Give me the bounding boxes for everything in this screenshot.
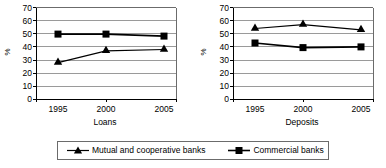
x-tick-label: 2005 — [344, 105, 378, 114]
x-axis-title-deposits: Deposits — [242, 118, 362, 127]
data-point-marker — [358, 43, 365, 50]
triangle-marker-icon — [66, 145, 90, 156]
x-axis-title-loans: Loans — [45, 118, 165, 127]
data-point-marker — [103, 31, 110, 38]
legend-label: Mutual and cooperative banks — [92, 146, 205, 155]
chart-panel-deposits: % 70 60 50 40 30 20 10 0 — [193, 0, 386, 130]
data-point-marker — [161, 33, 168, 40]
plot-background — [36, 8, 176, 100]
legend-item-mutual-cooperative-banks: Mutual and cooperative banks — [66, 145, 205, 156]
chart-panel-loans: % 70 60 50 40 30 20 10 0 — [0, 0, 193, 130]
chart-legend: Mutual and cooperative banks Commercial … — [57, 141, 329, 160]
x-tick-label: 2000 — [286, 105, 320, 114]
legend-label: Commercial banks — [253, 146, 323, 155]
x-tick-label: 1995 — [238, 105, 272, 114]
x-tick-label: 2005 — [147, 105, 181, 114]
data-point-marker — [300, 44, 307, 51]
legend-item-commercial-banks: Commercial banks — [227, 145, 323, 156]
data-point-marker — [55, 31, 62, 38]
data-point-marker — [252, 40, 259, 47]
chart-figure: % 70 60 50 40 30 20 10 0 — [0, 0, 386, 168]
x-tick-label: 1995 — [41, 105, 75, 114]
chart-panels: % 70 60 50 40 30 20 10 0 — [0, 0, 386, 130]
x-tick-label: 2000 — [89, 105, 123, 114]
square-marker-icon — [227, 145, 251, 156]
